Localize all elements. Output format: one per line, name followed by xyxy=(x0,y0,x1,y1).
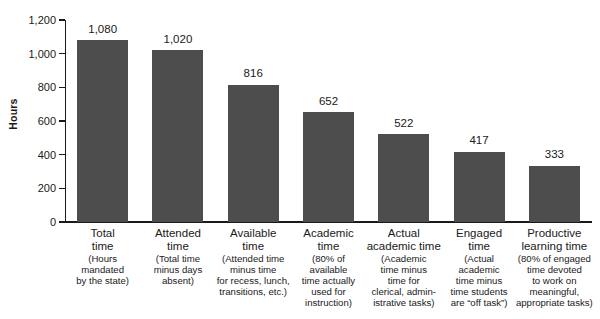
bar xyxy=(378,134,429,222)
category-label-note: (80% of engagedtime devotedto work onmea… xyxy=(508,253,600,308)
y-axis-tick-label: 200 xyxy=(0,182,56,194)
category-label: Productivelearning time(80% of engagedti… xyxy=(508,227,600,308)
bar-value-label: 652 xyxy=(291,96,366,108)
y-axis-tick-label: 400 xyxy=(0,149,56,161)
bar xyxy=(454,152,505,222)
bar-group: 652 xyxy=(291,20,366,222)
bar-value-label: 1,080 xyxy=(65,24,140,36)
category-label-title: Productivelearning time xyxy=(508,227,600,252)
bar-group: 417 xyxy=(441,20,516,222)
bar xyxy=(152,50,203,222)
x-axis-category-labels: Totaltime(Hoursmandatedby the state)Atte… xyxy=(65,227,592,319)
y-axis-tick-label: 1,000 xyxy=(0,48,56,60)
y-axis-tick-label: 1,200 xyxy=(0,14,56,26)
bar-value-label: 417 xyxy=(441,135,516,147)
bar-chart: Hours 02004006008001,0001,200 1,0801,020… xyxy=(0,0,600,319)
y-axis-tick-label: 0 xyxy=(0,216,56,228)
bar xyxy=(228,85,279,222)
bar-group: 1,080 xyxy=(65,20,140,222)
bar-group: 333 xyxy=(517,20,592,222)
bar-value-label: 816 xyxy=(216,68,291,80)
y-axis-tick-label: 800 xyxy=(0,81,56,93)
bar-value-label: 333 xyxy=(517,149,592,161)
plot-area: 1,0801,020816652522417333 xyxy=(65,20,592,222)
bar-value-label: 522 xyxy=(366,118,441,130)
bar-group: 1,020 xyxy=(140,20,215,222)
bar xyxy=(529,166,580,222)
bar xyxy=(303,112,354,222)
bar-value-label: 1,020 xyxy=(140,34,215,46)
bar xyxy=(77,40,128,222)
bar-group: 522 xyxy=(366,20,441,222)
y-axis-tick-label: 600 xyxy=(0,115,56,127)
bar-group: 816 xyxy=(216,20,291,222)
